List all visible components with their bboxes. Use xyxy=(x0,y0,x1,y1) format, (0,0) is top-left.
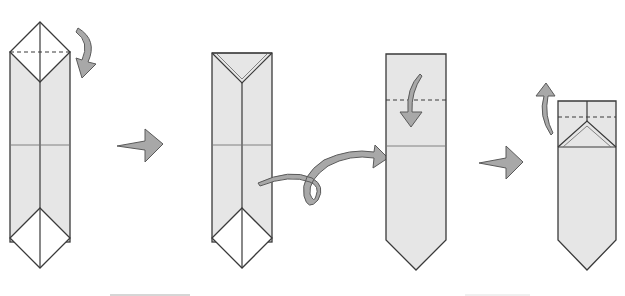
turn-over-loop-arrow-icon xyxy=(258,145,388,205)
next-step-arrow-icon xyxy=(479,146,523,179)
next-step-arrow-icon xyxy=(117,129,163,162)
step-1-figure xyxy=(10,22,96,268)
origami-diagram xyxy=(0,0,625,296)
step-2-figure xyxy=(212,53,388,268)
step-3-figure xyxy=(386,54,446,270)
curved-down-arrow-icon xyxy=(76,28,96,78)
curved-up-arrow-icon xyxy=(536,83,555,135)
step-4-figure xyxy=(536,83,616,270)
